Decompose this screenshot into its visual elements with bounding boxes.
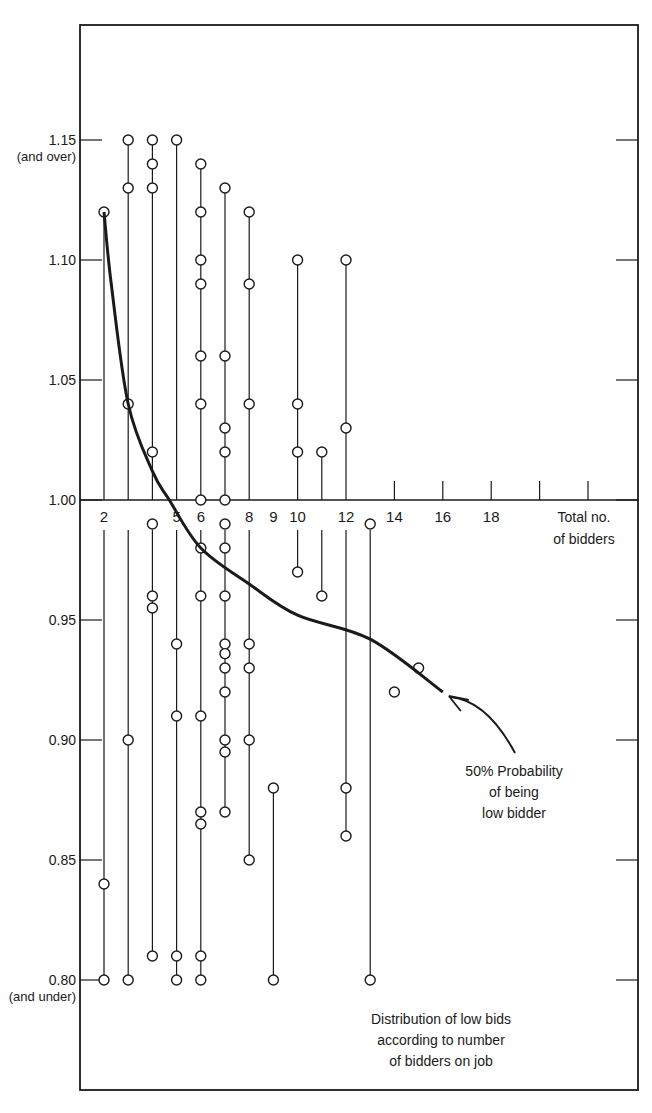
data-point <box>244 663 254 673</box>
data-point <box>147 591 157 601</box>
bid-column <box>341 255 351 841</box>
curve-annotation: 50% Probability <box>465 763 562 779</box>
data-point <box>196 807 206 817</box>
bid-column <box>196 159 206 985</box>
data-point <box>220 519 230 529</box>
data-point <box>220 351 230 361</box>
bid-column <box>268 500 278 985</box>
chart-caption: of bidders on job <box>389 1053 493 1069</box>
data-point <box>268 975 278 985</box>
data-point <box>99 879 109 889</box>
bid-columns <box>99 135 424 985</box>
data-point <box>293 567 303 577</box>
curve-annotation: low bidder <box>482 805 546 821</box>
bid-column <box>99 207 109 985</box>
data-point <box>123 735 133 745</box>
frame-border <box>80 25 638 1090</box>
x-tick-label: 2 <box>100 508 108 525</box>
data-point <box>365 519 375 529</box>
arrowhead-icon <box>449 696 469 711</box>
data-point <box>220 423 230 433</box>
data-point <box>220 495 230 505</box>
data-point <box>147 159 157 169</box>
data-point <box>341 423 351 433</box>
data-point <box>123 975 133 985</box>
data-point <box>220 663 230 673</box>
data-point <box>196 975 206 985</box>
data-point <box>293 399 303 409</box>
data-point <box>341 255 351 265</box>
data-point <box>293 255 303 265</box>
data-point <box>99 975 109 985</box>
x-axis-title: of bidders <box>553 531 614 547</box>
data-point <box>196 399 206 409</box>
data-point <box>147 951 157 961</box>
data-point <box>244 399 254 409</box>
data-point <box>196 351 206 361</box>
data-point <box>196 591 206 601</box>
data-point <box>341 831 351 841</box>
x-tick-label: 9 <box>269 508 277 525</box>
x-tick-label: 6 <box>197 508 205 525</box>
data-point <box>172 975 182 985</box>
data-point <box>123 135 133 145</box>
data-point <box>220 807 230 817</box>
y-tick-label: 1.15 <box>49 132 76 148</box>
plot-frame <box>80 25 638 1090</box>
data-point <box>196 951 206 961</box>
data-point <box>172 135 182 145</box>
data-point <box>196 159 206 169</box>
data-point <box>147 135 157 145</box>
data-point <box>220 735 230 745</box>
y-axis: 1.15(and over)1.101.051.000.950.900.850.… <box>9 132 638 1004</box>
y-tick-label: 1.10 <box>49 252 76 268</box>
x-tick-label: 14 <box>386 508 403 525</box>
annotation-arrow <box>451 697 515 753</box>
data-point <box>123 183 133 193</box>
y-tick-label: 0.90 <box>49 732 76 748</box>
x-tick-label: 10 <box>289 508 306 525</box>
bid-column <box>389 687 399 697</box>
bid-column <box>172 135 182 985</box>
data-point <box>244 639 254 649</box>
chart-caption: Distribution of low bids <box>371 1011 511 1027</box>
y-tick-label: 1.05 <box>49 372 76 388</box>
x-tick-label: 16 <box>434 508 451 525</box>
chart-caption: according to number <box>377 1032 505 1048</box>
bid-column <box>220 183 230 817</box>
bid-column <box>123 135 133 985</box>
x-tick-label: 12 <box>338 508 355 525</box>
y-tick-label: 0.80 <box>49 972 76 988</box>
bid-column <box>147 135 157 961</box>
data-point <box>220 639 230 649</box>
data-point <box>172 951 182 961</box>
data-point <box>244 279 254 289</box>
data-point <box>365 975 375 985</box>
data-point <box>341 783 351 793</box>
data-point <box>172 711 182 721</box>
data-point <box>172 639 182 649</box>
y-tick-sublabel: (and under) <box>9 989 76 1004</box>
data-point <box>317 591 327 601</box>
data-point <box>147 603 157 613</box>
data-point <box>220 747 230 757</box>
data-point <box>196 819 206 829</box>
data-point <box>244 855 254 865</box>
y-tick-label: 1.00 <box>49 492 76 508</box>
data-point <box>196 255 206 265</box>
y-tick-label: 0.85 <box>49 852 76 868</box>
data-point <box>147 447 157 457</box>
data-point <box>220 543 230 553</box>
x-axis-title: Total no. <box>558 509 611 525</box>
x-tick-label: 8 <box>245 508 253 525</box>
chart: 1.15(and over)1.101.051.000.950.900.850.… <box>0 0 652 1113</box>
data-point <box>244 207 254 217</box>
bid-column <box>244 207 254 865</box>
data-point <box>244 735 254 745</box>
data-point <box>293 447 303 457</box>
annotations: 50% Probabilityof beinglow bidderDistrib… <box>371 763 563 1069</box>
data-point <box>196 495 206 505</box>
data-point <box>196 207 206 217</box>
bid-column <box>293 255 303 577</box>
data-point <box>220 183 230 193</box>
